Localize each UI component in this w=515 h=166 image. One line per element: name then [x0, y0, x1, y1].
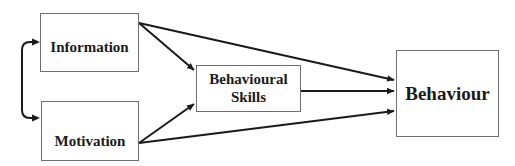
node-label-line-1: Behavioural [209, 71, 287, 88]
node-label: Motivation [55, 133, 126, 150]
node-motivation: Motivation [41, 101, 139, 161]
node-label: Behaviour [405, 83, 489, 105]
node-behaviour: Behaviour [396, 50, 499, 137]
node-information: Information [40, 13, 139, 72]
node-label-line-2: Skills [231, 89, 266, 106]
node-label: Information [50, 39, 128, 56]
arrowhead-icon [32, 39, 40, 46]
node-behavioural-skills: Behavioural Skills [196, 65, 301, 112]
edge-information-motivation [22, 42, 38, 118]
arrowhead-icon [32, 115, 40, 122]
